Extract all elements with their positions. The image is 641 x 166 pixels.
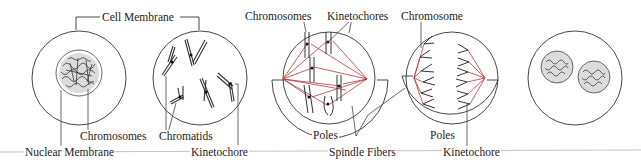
label-poles-2: Poles — [429, 129, 456, 141]
label-poles-1: Poles — [312, 129, 339, 141]
metaphase-cell — [272, 32, 388, 138]
label-kinetochore-2: Kinetochore — [442, 146, 501, 158]
telophase-cell — [528, 31, 622, 125]
daughter-nucleus-1 — [541, 51, 573, 83]
kinetochore-leader-1 — [235, 84, 238, 145]
label-cell-membrane: Cell Membrane — [101, 11, 175, 23]
label-chromosomes-2: Chromosomes — [244, 10, 312, 22]
cell-membrane-circle-2 — [153, 31, 247, 125]
anaphase-cell — [402, 32, 498, 124]
label-nuclear-membrane: Nuclear Membrane — [24, 146, 115, 158]
prophase-cell — [153, 31, 247, 125]
label-chromosomes-1: Chromosomes — [79, 130, 147, 142]
label-kinetochores: Kinetochores — [326, 10, 389, 22]
anaphase-chromatids — [420, 36, 470, 109]
spindle-fibers-3 — [283, 41, 367, 105]
label-spindle-fibers: Spindle Fibers — [328, 146, 397, 158]
label-chromosome: Chromosome — [400, 10, 464, 22]
mitosis-diagram: Cell Membrane Chromosomes Nuclear Membra… — [0, 0, 641, 166]
interphase-cell — [32, 31, 126, 125]
chromatid-pairs — [162, 39, 234, 108]
kinetochore-dots — [170, 53, 231, 98]
label-chromatids: Chromatids — [158, 130, 214, 142]
label-kinetochore-1: Kinetochore — [190, 146, 249, 158]
daughter-nucleus-2 — [578, 61, 610, 93]
poles-arc-4 — [402, 76, 498, 114]
spindle-fibers-leader — [352, 106, 368, 136]
spindle-fibers-4 — [414, 44, 485, 104]
